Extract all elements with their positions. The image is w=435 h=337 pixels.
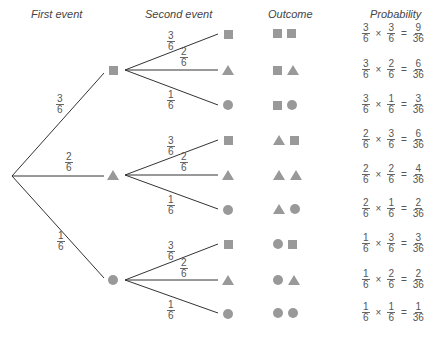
square-icon <box>224 30 233 39</box>
triangle-icon <box>222 65 234 75</box>
branch-prob-first-circle: 16 <box>57 231 65 252</box>
branch-prob-second-circle: 16 <box>167 300 175 321</box>
outcome-pair <box>273 100 297 110</box>
triangle-icon <box>222 275 234 285</box>
circle-icon <box>223 100 233 110</box>
fraction-result: 336 <box>413 233 424 254</box>
circle-icon <box>287 100 297 110</box>
fraction-first: 36 <box>362 94 370 115</box>
times-sign: × <box>376 238 382 249</box>
equals-sign: = <box>401 134 407 145</box>
probability-row: 26×26=436 <box>362 164 424 185</box>
fraction-second: 16 <box>387 198 395 219</box>
times-sign: × <box>376 169 382 180</box>
fraction-result: 136 <box>413 302 424 323</box>
leaf-triangle <box>222 169 234 181</box>
equals-sign: = <box>401 203 407 214</box>
circle-icon <box>223 309 233 319</box>
square-icon <box>273 29 282 38</box>
square-icon <box>290 136 299 145</box>
circle-icon <box>288 308 298 318</box>
branch-prob-second-circle: 16 <box>167 195 175 216</box>
circle-icon <box>273 308 283 318</box>
square-icon <box>287 29 296 38</box>
fraction-second: 36 <box>387 129 395 150</box>
probability-row: 36×26=636 <box>362 59 424 80</box>
circle-icon <box>273 275 283 285</box>
outcome-pair <box>273 239 297 249</box>
branch-prob-second-square: 36 <box>167 136 175 157</box>
fraction-first: 16 <box>362 269 370 290</box>
times-sign: × <box>376 64 382 75</box>
fraction-second: 36 <box>387 23 395 44</box>
triangle-icon <box>273 204 285 214</box>
branch-prob-second-triangle: 26 <box>180 258 188 279</box>
equals-sign: = <box>401 307 407 318</box>
circle-icon <box>223 205 233 215</box>
fraction-second: 26 <box>387 59 395 80</box>
probability-row: 16×16=136 <box>362 302 424 323</box>
times-sign: × <box>376 307 382 318</box>
node-first-triangle <box>107 169 119 181</box>
equals-sign: = <box>401 28 407 39</box>
fraction-result: 636 <box>413 129 424 150</box>
triangle-icon <box>107 170 119 180</box>
probability-row: 36×36=936 <box>362 23 424 44</box>
circle-icon <box>273 239 283 249</box>
fraction-second: 26 <box>387 164 395 185</box>
fraction-first: 36 <box>362 59 370 80</box>
circle-icon <box>290 204 300 214</box>
fraction-result: 936 <box>413 23 424 44</box>
probability-row: 26×36=636 <box>362 129 424 150</box>
outcome-pair <box>273 204 300 214</box>
fraction-second: 36 <box>387 233 395 254</box>
times-sign: × <box>376 99 382 110</box>
fraction-result: 436 <box>413 164 424 185</box>
circle-icon <box>108 275 118 285</box>
leaf-triangle <box>222 64 234 76</box>
probability-row: 16×36=336 <box>362 233 424 254</box>
times-sign: × <box>376 274 382 285</box>
leaf-square <box>222 238 234 250</box>
branch-prob-second-triangle: 26 <box>180 47 188 68</box>
fraction-result: 236 <box>413 269 424 290</box>
triangle-icon <box>290 170 302 180</box>
fraction-result: 636 <box>413 59 424 80</box>
branch-prob-first-triangle: 26 <box>65 152 73 173</box>
equals-sign: = <box>401 274 407 285</box>
probability-row: 36×16=336 <box>362 94 424 115</box>
fraction-second: 26 <box>387 269 395 290</box>
equals-sign: = <box>401 169 407 180</box>
branch-prob-second-circle: 16 <box>167 90 175 111</box>
square-icon <box>288 240 297 249</box>
leaf-triangle <box>222 274 234 286</box>
node-first-square <box>107 64 119 76</box>
outcome-pair <box>273 170 302 180</box>
branch-prob-second-triangle: 26 <box>180 152 188 173</box>
outcome-pair <box>273 308 298 318</box>
probability-row: 16×26=236 <box>362 269 424 290</box>
fraction-result: 236 <box>413 198 424 219</box>
times-sign: × <box>376 203 382 214</box>
branch-prob-second-square: 36 <box>167 31 175 52</box>
fraction-first: 36 <box>362 23 370 44</box>
outcome-pair <box>273 275 300 285</box>
outcome-pair <box>273 65 299 75</box>
outcome-pair <box>273 135 299 145</box>
triangle-icon <box>273 135 285 145</box>
equals-sign: = <box>401 99 407 110</box>
times-sign: × <box>376 134 382 145</box>
fraction-first: 26 <box>362 129 370 150</box>
triangle-icon <box>273 170 285 180</box>
fraction-first: 26 <box>362 198 370 219</box>
square-icon <box>273 101 282 110</box>
fraction-second: 16 <box>387 302 395 323</box>
triangle-icon <box>222 170 234 180</box>
times-sign: × <box>376 28 382 39</box>
square-icon <box>224 240 233 249</box>
equals-sign: = <box>401 64 407 75</box>
fraction-first: 26 <box>362 164 370 185</box>
node-first-circle <box>107 274 119 286</box>
leaf-square <box>222 28 234 40</box>
triangle-icon <box>288 275 300 285</box>
